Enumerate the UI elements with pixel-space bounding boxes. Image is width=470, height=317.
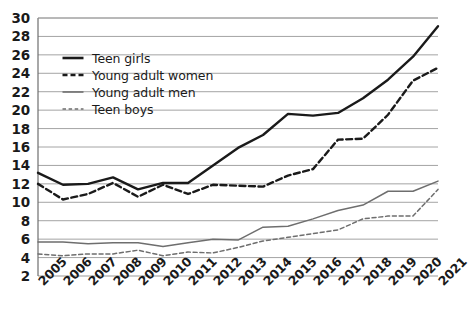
y-tick-label: 12	[0, 176, 30, 192]
legend-label: Teen boys	[92, 102, 153, 117]
y-tick-label: 8	[0, 213, 30, 229]
series-line-young-adult-men	[38, 181, 438, 246]
chart-legend: Teen girlsYoung adult womenYoung adult m…	[62, 50, 242, 118]
legend-swatch-icon	[62, 52, 84, 64]
y-tick-label: 24	[0, 65, 30, 81]
y-tick-label: 20	[0, 102, 30, 118]
legend-swatch-icon	[62, 103, 84, 115]
legend-item: Young adult women	[62, 67, 242, 83]
legend-item: Young adult men	[62, 84, 242, 100]
legend-item: Teen boys	[62, 101, 242, 117]
series-line-teen-boys	[38, 189, 438, 255]
y-tick-label: 14	[0, 157, 30, 173]
y-tick-label: 6	[0, 231, 30, 247]
y-tick-label: 18	[0, 121, 30, 137]
legend-swatch-icon	[62, 69, 84, 81]
y-tick-label: 10	[0, 194, 30, 210]
y-tick-label: 26	[0, 47, 30, 63]
y-tick-label: 16	[0, 139, 30, 155]
y-tick-label: 30	[0, 10, 30, 26]
legend-item: Teen girls	[62, 50, 242, 66]
y-tick-label: 2	[0, 268, 30, 284]
x-axis-tick-labels: 2005200620072008200920102011201220132014…	[38, 278, 438, 317]
legend-swatch-icon	[62, 86, 84, 98]
legend-label: Young adult women	[92, 68, 213, 83]
y-tick-label: 4	[0, 250, 30, 266]
y-tick-label: 28	[0, 28, 30, 44]
y-tick-label: 22	[0, 84, 30, 100]
legend-label: Teen girls	[92, 51, 150, 66]
legend-label: Young adult men	[92, 85, 196, 100]
